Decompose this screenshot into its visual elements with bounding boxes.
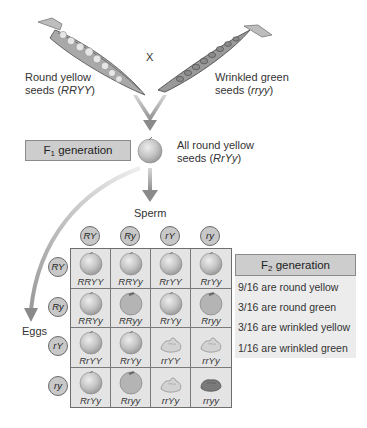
genotype-label: rrYy (191, 355, 231, 366)
f1-genotype: RrYy (213, 152, 237, 164)
round-yellow-seed-icon (79, 331, 103, 355)
genotype-label: RRyy (111, 315, 150, 326)
sperm-gamete-RY: RY (80, 226, 100, 246)
punnett-cell-r4c3: rrYy (151, 368, 191, 408)
egg-gamete-RY: RY (48, 257, 68, 277)
f1-desc-suffix: ) (238, 152, 242, 164)
genotype-label: Rryy (191, 315, 231, 326)
f2-generation-box: F2 generation (235, 254, 356, 276)
punnett-square: RRYY RRYy RrYY RrYy RRYy RRyy RrYy Rryy … (70, 248, 232, 408)
round-yellow-seed-icon (199, 252, 223, 276)
parent-right-line1: Wrinkled green (215, 71, 289, 84)
genotype-label: rryy (191, 395, 231, 406)
parent-left-label: Round yellow seeds (RRYY) (25, 71, 95, 97)
round-yellow-seed-icon (79, 252, 103, 276)
parent-right-line2: seeds (rryy) (215, 84, 289, 97)
egg-gamete-rY: rY (48, 336, 68, 356)
genotype-label: RRYy (111, 276, 150, 287)
punnett-cell-r4c4: rryy (191, 368, 231, 408)
genotype-label: RRYy (71, 315, 110, 326)
round-green-seed-icon (119, 371, 143, 395)
wrinkled-yellow-seed-icon (159, 371, 183, 395)
parent-left-suffix: ) (91, 84, 95, 96)
cross-merge-arrow-icon (133, 95, 167, 131)
round-yellow-seed-icon (119, 331, 143, 355)
punnett-cell-r3c1: RrYY (71, 328, 111, 368)
genotype-label: Rryy (111, 395, 150, 406)
genotype-label: rrYy (151, 395, 190, 406)
f1-desc-prefix: seeds ( (177, 152, 213, 164)
punnett-cell-r1c1: RRYY (71, 249, 111, 289)
f2-ratio-wrinkled-green: 1/16 are wrinkled green (238, 342, 348, 354)
parent-left-line1: Round yellow (25, 71, 95, 84)
punnett-cell-r2c2: RRyy (111, 289, 151, 329)
f2-ratio-round-yellow: 9/16 are round yellow (238, 281, 338, 293)
f1-seed-icon (138, 137, 162, 163)
sperm-gamete-Ry: Ry (120, 226, 140, 246)
f1-down-arrow-icon (142, 168, 158, 202)
parent-right-genotype: rryy (251, 84, 269, 96)
parent-right-prefix: seeds ( (215, 84, 251, 96)
round-yellow-seed-icon (79, 292, 103, 316)
genotype-label: RrYY (71, 355, 110, 366)
f1-generation-box: F1 generation (25, 140, 131, 161)
round-yellow-seed-icon (119, 252, 143, 276)
round-yellow-seed-icon (159, 252, 183, 276)
f2-results-panel: F2 generation 9/16 are round yellow 3/16… (235, 254, 356, 358)
punnett-cell-r4c2: Rryy (111, 368, 151, 408)
wrinkled-yellow-seed-icon (159, 331, 183, 355)
f1-description-line1: All round yellow (177, 139, 254, 152)
f2-label-suffix: generation (272, 259, 330, 271)
round-yellow-seed-icon (159, 292, 183, 316)
genotype-label: RrYY (151, 276, 190, 287)
round-green-seed-icon (199, 292, 223, 316)
punnett-cell-r2c4: Rryy (191, 289, 231, 329)
punnett-cell-r1c3: RrYY (151, 249, 191, 289)
punnett-cell-r1c2: RRYy (111, 249, 151, 289)
cross-symbol: X (146, 51, 153, 64)
f1-label-suffix: generation (55, 144, 113, 156)
egg-gamete-ry: ry (48, 376, 68, 396)
punnett-cell-r3c3: rrYY (151, 328, 191, 368)
parent-left-genotype: RRYY (61, 84, 91, 96)
wrinkled-yellow-seed-icon (199, 331, 223, 355)
f1-description: All round yellow seeds (RrYy) (177, 139, 254, 165)
punnett-cell-r3c2: RrYy (111, 328, 151, 368)
parent-right-label: Wrinkled green seeds (rryy) (215, 71, 289, 97)
egg-gamete-Ry: Ry (48, 297, 68, 317)
genotype-label: rrYY (151, 355, 190, 366)
round-green-seed-icon (119, 292, 143, 316)
genotype-label: RrYy (111, 355, 150, 366)
parent-left-line2: seeds (RRYY) (25, 84, 95, 97)
round-yellow-seed-icon (79, 371, 103, 395)
punnett-cell-r1c4: RrYy (191, 249, 231, 289)
genotype-label: RRYY (71, 276, 110, 287)
parent-right-suffix: ) (269, 84, 273, 96)
f1-label-prefix: F (43, 144, 50, 156)
f2-ratio-wrinkled-yellow: 3/16 are wrinkled yellow (238, 321, 350, 333)
punnett-cell-r4c1: RrYy (71, 368, 111, 408)
eggs-label: Eggs (22, 325, 47, 338)
f2-ratio-round-green: 3/16 are round green (238, 301, 336, 313)
punnett-cell-r2c1: RRYy (71, 289, 111, 329)
genotype-label: RrYy (151, 315, 190, 326)
sperm-label: Sperm (134, 207, 166, 220)
f2-label-prefix: F (261, 259, 268, 271)
sperm-gamete-rY: rY (160, 226, 180, 246)
wrinkled-green-seed-icon (199, 371, 223, 395)
punnett-cell-r3c4: rrYy (191, 328, 231, 368)
punnett-cell-r2c3: RrYy (151, 289, 191, 329)
f1-description-line2: seeds (RrYy) (177, 152, 254, 165)
genotype-label: RrYy (191, 276, 231, 287)
sperm-gamete-ry: ry (200, 226, 220, 246)
genotype-label: RrYy (71, 395, 110, 406)
parent-left-prefix: seeds ( (25, 84, 61, 96)
